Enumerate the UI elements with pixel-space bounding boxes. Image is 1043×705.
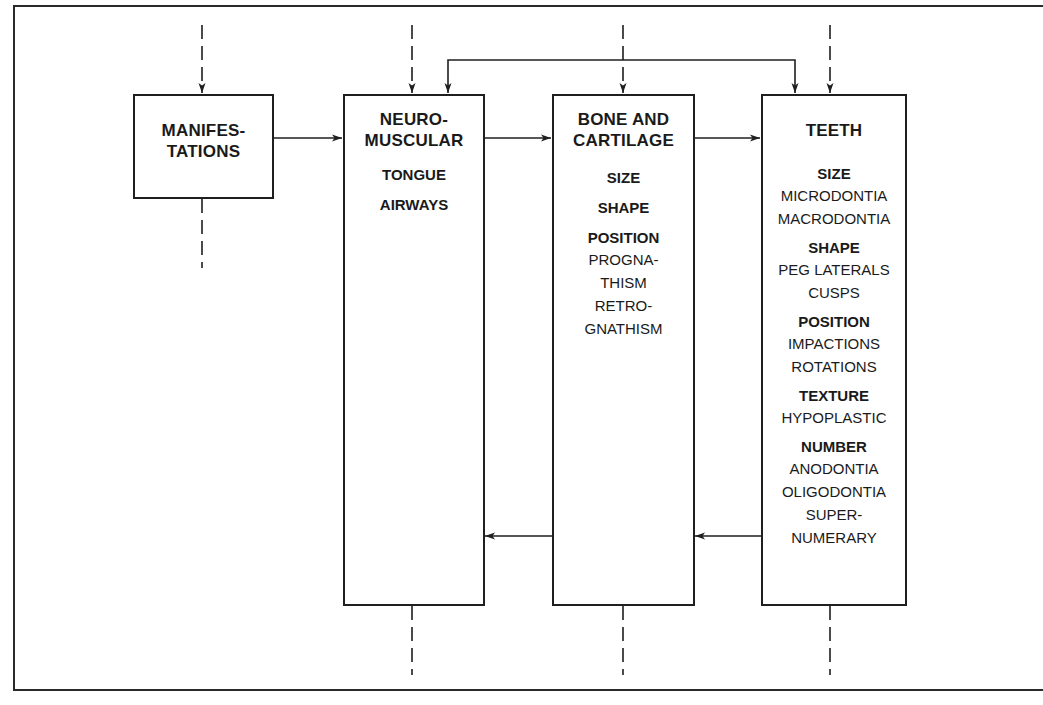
item-position-details: PROGNA- THISM RETRO- GNATHISM [554, 248, 693, 340]
item-tongue: TONGUE [345, 165, 483, 185]
item-shape: SHAPE [554, 198, 693, 218]
item-texture: TEXTURE [763, 386, 905, 406]
item-size: SIZE [554, 168, 693, 188]
box-manifestations: MANIFES- TATIONS [133, 94, 274, 199]
item-position: POSITION [763, 312, 905, 332]
box-title-teeth: TEETH [763, 120, 905, 141]
box-neuromuscular: NEURO- MUSCULAR TONGUE AIRWAYS [343, 94, 485, 606]
box-title-neuromuscular: NEURO- MUSCULAR [345, 109, 483, 151]
item-position-details: IMPACTIONS ROTATIONS [763, 332, 905, 378]
item-shape-details: PEG LATERALS CUSPS [763, 258, 905, 304]
item-number: NUMBER [763, 437, 905, 457]
box-teeth: TEETH SIZE MICRODONTIA MACRODONTIA SHAPE… [761, 94, 907, 606]
item-shape: SHAPE [763, 238, 905, 258]
item-number-details: ANODONTIA OLIGODONTIA SUPER- NUMERARY [763, 457, 905, 549]
feedback-loop-neuromuscular-teeth [448, 60, 795, 93]
box-title-manifestations: MANIFES- TATIONS [135, 120, 272, 162]
box-bone-cartilage: BONE AND CARTILAGE SIZE SHAPE POSITION P… [552, 94, 695, 606]
item-size: SIZE [763, 164, 905, 184]
box-title-bone-cartilage: BONE AND CARTILAGE [554, 109, 693, 151]
item-position: POSITION [554, 228, 693, 248]
item-size-details: MICRODONTIA MACRODONTIA [763, 184, 905, 230]
item-airways: AIRWAYS [345, 195, 483, 215]
item-texture-details: HYPOPLASTIC [763, 406, 905, 429]
